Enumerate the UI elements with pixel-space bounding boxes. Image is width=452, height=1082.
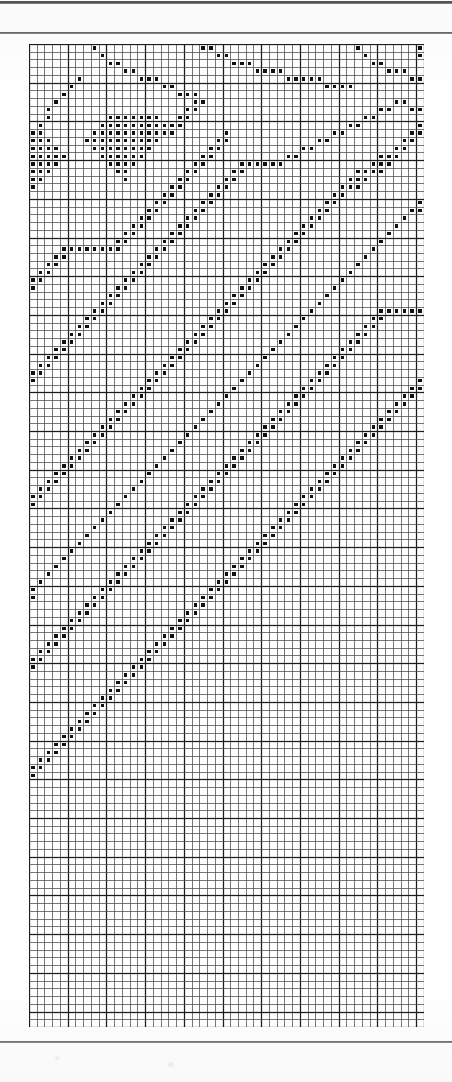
stitch-symbol (302, 77, 305, 80)
stitch-symbol (70, 85, 73, 88)
stitch-symbol (194, 611, 197, 614)
stitch-symbol (132, 673, 135, 676)
stitch-symbol (310, 387, 313, 390)
stitch-symbol (395, 309, 398, 312)
stitch-symbol (379, 317, 382, 320)
stitch-symbol (387, 162, 390, 165)
chart-grid[interactable] (29, 44, 424, 1027)
stitch-symbol (163, 124, 166, 127)
stitch-symbol (178, 124, 181, 127)
stitch-symbol (39, 495, 42, 498)
stitch-symbol (201, 487, 204, 490)
stitch-symbol (163, 371, 166, 374)
stitch-symbol (356, 46, 359, 49)
stitch-symbol (225, 572, 228, 575)
stitch-symbol (410, 394, 413, 397)
stitch-symbol (209, 480, 212, 483)
stitch-symbol (31, 371, 34, 374)
stitch-symbol (279, 255, 282, 258)
stitch-symbol (341, 348, 344, 351)
stitch-symbol (140, 557, 143, 560)
stitch-symbol (194, 162, 197, 165)
stitch-symbol (170, 85, 173, 88)
stitch-symbol (124, 565, 127, 568)
stitch-symbol (78, 325, 81, 328)
stitch-symbol (116, 572, 119, 575)
stitch-symbol (287, 333, 290, 336)
stitch-symbol (132, 402, 135, 405)
stitch-symbol (39, 131, 42, 134)
stitch-symbol (287, 155, 290, 158)
stitch-symbol (194, 170, 197, 173)
stitch-symbol (395, 100, 398, 103)
stitch-symbol (140, 131, 143, 134)
stitch-symbol (39, 162, 42, 165)
stitch-symbol (294, 232, 297, 235)
stitch-symbol (186, 611, 189, 614)
stitch-symbol (232, 178, 235, 181)
scanned-page (0, 0, 452, 1082)
stitch-symbol (70, 456, 73, 459)
stitch-symbol (109, 124, 112, 127)
stitch-symbol (163, 526, 166, 529)
stitch-symbol (31, 178, 34, 181)
stitch-symbol (271, 162, 274, 165)
stitch-symbol (140, 139, 143, 142)
stitch-symbol (116, 580, 119, 583)
stitch-symbol (372, 425, 375, 428)
stitch-symbol (372, 317, 375, 320)
stitch-symbol (31, 185, 34, 188)
stitch-symbol (294, 511, 297, 514)
stitch-symbol (403, 147, 406, 150)
stitch-symbol (310, 495, 313, 498)
stitch-symbol (341, 193, 344, 196)
stitch-symbol (194, 216, 197, 219)
stitch-symbol (418, 108, 421, 111)
stitch-symbol (147, 124, 150, 127)
stitch-symbol (364, 333, 367, 336)
stitch-symbol (287, 511, 290, 514)
stitch-symbol (403, 69, 406, 72)
stitch-symbol (395, 410, 398, 413)
stitch-symbol (39, 178, 42, 181)
stitch-symbol (31, 379, 34, 382)
stitch-symbol (147, 549, 150, 552)
stitch-symbol (62, 634, 65, 637)
stitch-symbol (403, 309, 406, 312)
stitch-symbol (155, 379, 158, 382)
stitch-symbol (271, 526, 274, 529)
stitch-symbol (78, 619, 81, 622)
stitch-symbol (349, 340, 352, 343)
stitch-symbol (287, 402, 290, 405)
stitch-symbol (248, 371, 251, 374)
stitch-symbol (356, 441, 359, 444)
stitch-symbol (349, 124, 352, 127)
stitch-symbol (132, 69, 135, 72)
stitch-symbol (263, 356, 266, 359)
stitch-symbol (271, 348, 274, 351)
stitch-symbol (170, 193, 173, 196)
stitch-symbol (39, 371, 42, 374)
stitch-symbol (325, 472, 328, 475)
stitch-symbol (124, 572, 127, 575)
stitch-symbol (279, 526, 282, 529)
stitch-symbol (78, 542, 81, 545)
stitch-symbol (201, 418, 204, 421)
stitch-symbol (279, 247, 282, 250)
stitch-symbol (217, 580, 220, 583)
stitch-symbol (132, 232, 135, 235)
stitch-symbol (147, 263, 150, 266)
stitch-symbol (101, 131, 104, 134)
stitch-symbol (170, 449, 173, 452)
stitch-symbol (279, 410, 282, 413)
stitch-symbol (124, 147, 127, 150)
stitch-symbol (341, 278, 344, 281)
stitch-symbol (47, 162, 50, 165)
stitch-symbol (310, 224, 313, 227)
stitch-symbol (333, 286, 336, 289)
stitch-symbol (201, 333, 204, 336)
stitch-symbol (395, 155, 398, 158)
stitch-symbol (54, 480, 57, 483)
stitch-symbol (116, 62, 119, 65)
stitch-symbol (132, 124, 135, 127)
